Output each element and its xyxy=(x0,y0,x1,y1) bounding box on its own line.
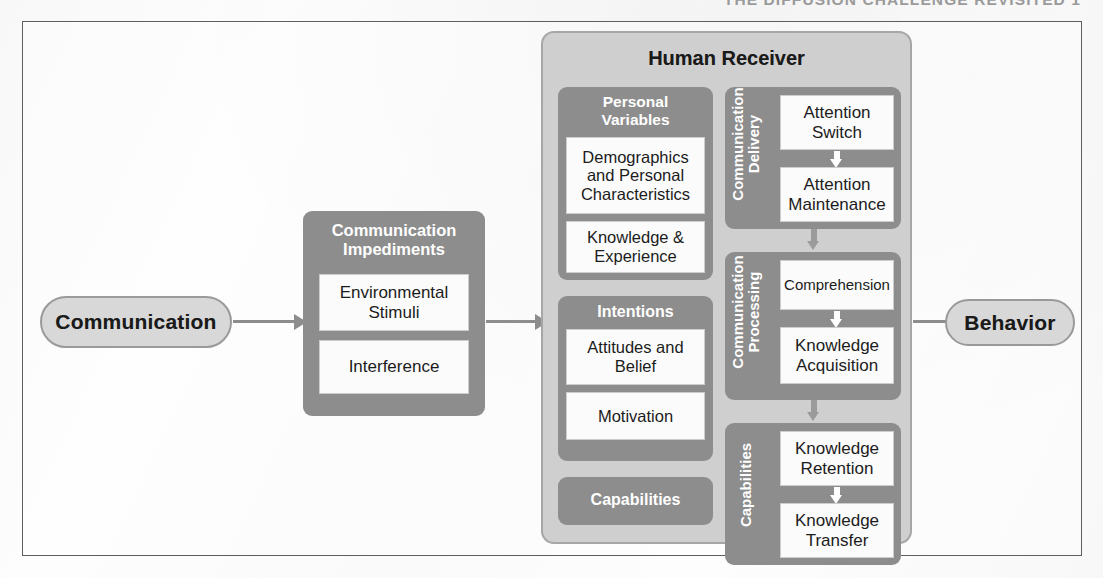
human-receiver-title-label: Human Receiver xyxy=(648,47,805,69)
capabilities-step-knowledge-retention[interactable]: Knowledge Retention xyxy=(780,431,894,486)
capabilities-step-knowledge-transfer[interactable]: Knowledge Transfer xyxy=(780,503,894,558)
arrow-delivery-to-processing xyxy=(807,229,820,251)
personal-variables-title-line1: Personal xyxy=(603,93,668,110)
delivery-step-1-label: Attention Maintenance xyxy=(784,175,890,213)
delivery-step-attention-maintenance[interactable]: Attention Maintenance xyxy=(780,167,894,222)
running-head: THE DIFFUSION CHALLENGE REVISITED 1 xyxy=(0,0,1103,9)
input-node-label: Communication xyxy=(55,310,216,334)
arrow-retention-to-transfer xyxy=(830,487,843,504)
delivery-step-attention-switch[interactable]: Attention Switch xyxy=(780,95,894,150)
personal-variables-item-1-label: Knowledge & Experience xyxy=(570,228,701,265)
panel-capabilities-left: Capabilities xyxy=(558,477,713,525)
capabilities-right-vertical-label: Capabilities xyxy=(734,432,758,538)
panel-communication-processing: Communication Processing Comprehension K… xyxy=(725,252,901,400)
personal-variables-item-knowledge-experience[interactable]: Knowledge & Experience xyxy=(566,221,705,273)
intentions-item-attitudes-belief[interactable]: Attitudes and Belief xyxy=(566,329,705,385)
processing-step-comprehension[interactable]: Comprehension xyxy=(780,260,894,310)
arrow-processing-to-capabilities xyxy=(807,400,820,422)
capabilities-step-1-label: Knowledge Transfer xyxy=(784,511,890,549)
intentions-title: Intentions xyxy=(558,303,713,321)
communication-delivery-label-line2: Delivery xyxy=(746,115,763,173)
impediments-title: Communication Impediments xyxy=(303,221,485,259)
panel-capabilities-right: Capabilities Knowledge Retention Knowled… xyxy=(725,423,901,565)
impediments-item-interference[interactable]: Interference xyxy=(319,340,469,394)
intentions-item-motivation[interactable]: Motivation xyxy=(566,392,705,440)
impediments-title-line2: Impediments xyxy=(343,240,445,258)
processing-step-knowledge-acquisition[interactable]: Knowledge Acquisition xyxy=(780,327,894,384)
impediments-item-0-label: Environmental Stimuli xyxy=(323,283,465,321)
panel-communication-delivery: Communication Delivery Attention Switch … xyxy=(725,87,901,229)
communication-delivery-label-line1: Communication xyxy=(730,87,747,200)
delivery-step-0-label: Attention Switch xyxy=(784,103,890,141)
capabilities-right-label-line1: Capabilities xyxy=(738,443,755,527)
personal-variables-title: Personal Variables xyxy=(558,93,713,128)
communication-processing-label-line2: Processing xyxy=(746,272,763,353)
arrow-communication-to-impediments xyxy=(233,320,295,323)
communication-processing-label-line1: Communication xyxy=(730,255,747,368)
processing-step-0-label: Comprehension xyxy=(784,277,890,294)
panel-communication-impediments: Communication Impediments Environmental … xyxy=(303,211,485,416)
arrow-impediments-to-human-receiver xyxy=(486,320,536,323)
human-receiver-title: Human Receiver xyxy=(543,47,910,70)
output-node-label: Behavior xyxy=(964,311,1055,335)
communication-processing-vertical-label: Communication Processing xyxy=(725,247,767,377)
input-node-communication[interactable]: Communication xyxy=(40,296,232,348)
intentions-item-0-label: Attitudes and Belief xyxy=(570,338,701,375)
capabilities-left-title-label: Capabilities xyxy=(591,491,681,508)
impediments-item-environmental-stimuli[interactable]: Environmental Stimuli xyxy=(319,274,469,331)
panel-intentions: Intentions Attitudes and Belief Motivati… xyxy=(558,296,713,461)
arrow-attention-switch-to-maintenance xyxy=(830,151,843,168)
arrow-comprehension-to-knowledge-acquisition xyxy=(830,311,843,328)
processing-step-1-label: Knowledge Acquisition xyxy=(784,336,890,374)
personal-variables-item-0-label: Demographics and Personal Characteristic… xyxy=(570,148,701,204)
personal-variables-item-demographics[interactable]: Demographics and Personal Characteristic… xyxy=(566,137,705,214)
panel-human-receiver: Human Receiver Personal Variables Demogr… xyxy=(541,31,912,544)
intentions-item-1-label: Motivation xyxy=(598,407,673,426)
capabilities-step-0-label: Knowledge Retention xyxy=(784,439,890,477)
capabilities-left-title: Capabilities xyxy=(558,491,713,509)
intentions-title-label: Intentions xyxy=(597,303,673,320)
impediments-title-line1: Communication xyxy=(332,221,457,239)
communication-delivery-vertical-label: Communication Delivery xyxy=(725,79,767,209)
impediments-item-1-label: Interference xyxy=(349,357,440,376)
panel-personal-variables: Personal Variables Demographics and Pers… xyxy=(558,87,713,280)
personal-variables-title-line2: Variables xyxy=(601,111,669,128)
output-node-behavior[interactable]: Behavior xyxy=(945,299,1075,346)
